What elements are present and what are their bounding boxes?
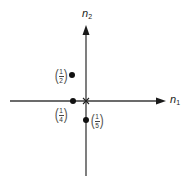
n2-arrowhead-icon [83, 25, 90, 35]
denominator: 5 [95, 122, 99, 129]
right-paren: ) [100, 112, 104, 130]
point-quarter-label: ( 1 4 ) [54, 106, 68, 124]
denominator: 4 [59, 116, 63, 123]
n1-arrowhead-icon [156, 98, 166, 105]
numerator: 1 [59, 107, 63, 114]
numerator: 1 [95, 113, 99, 120]
coordinate-diagram [0, 0, 189, 182]
right-paren: ) [64, 106, 68, 124]
n1-label-sub: 1 [176, 99, 180, 106]
left-paren: ( [91, 112, 95, 130]
point-half-dot [69, 72, 75, 78]
denominator: 2 [59, 77, 63, 84]
numerator: 1 [59, 68, 63, 75]
n1-axis-label: n1 [170, 94, 180, 106]
right-paren: ) [64, 67, 68, 85]
n2-label-sub: 2 [88, 13, 92, 20]
point-fifth-dot [83, 117, 89, 123]
left-paren: ( [55, 67, 59, 85]
point-half-label: ( 1 2 ) [54, 67, 68, 85]
point-quarter-dot [70, 98, 76, 104]
point-fifth-label: ( 1 5 ) [90, 112, 104, 130]
n2-axis-label: n2 [82, 8, 92, 20]
left-paren: ( [55, 106, 59, 124]
